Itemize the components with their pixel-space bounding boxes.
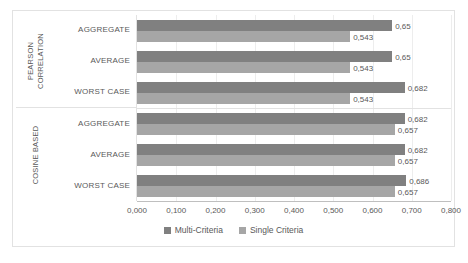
bar-single[interactable] xyxy=(137,186,395,197)
bar-group: 0,6860,657 xyxy=(137,170,451,201)
bar-group: 0,650,543 xyxy=(137,15,451,46)
bar-single[interactable] xyxy=(137,155,395,166)
bar-value-label: 0,65 xyxy=(392,52,411,61)
category-label: WORST CASE xyxy=(56,87,130,97)
bar-single[interactable] xyxy=(137,62,350,73)
bar-value-label: 0,65 xyxy=(392,21,411,30)
value-axis: 0,0000,1000,2000,3000,4000,5000,6000,700… xyxy=(137,201,451,220)
bars-area: 0,650,5430,650,5430,6820,5430,6820,6570,… xyxy=(137,15,451,201)
bar-row-multi: 0,65 xyxy=(137,51,451,62)
bar-row-single: 0,657 xyxy=(137,186,451,197)
legend-swatch-icon xyxy=(164,227,171,234)
bar-row-multi: 0,682 xyxy=(137,144,451,155)
x-axis-tick-label: 0,200 xyxy=(205,206,225,215)
x-axis-tick-label: 0,100 xyxy=(166,206,186,215)
x-axis-tick-label: 0,800 xyxy=(441,206,461,215)
bar-value-label: 0,543 xyxy=(350,32,373,41)
x-axis-tick-label: 0,500 xyxy=(323,206,343,215)
bar-row-single: 0,543 xyxy=(137,62,451,73)
bar-value-label: 0,543 xyxy=(350,63,373,72)
x-axis-tick-label: 0,300 xyxy=(245,206,265,215)
bar-row-multi: 0,682 xyxy=(137,113,451,124)
group-title-pearson-correlation: PEARSON CORRELATION xyxy=(16,15,56,107)
legend-item[interactable]: Multi-Criteria xyxy=(164,225,223,235)
x-axis-tick-label: 0,600 xyxy=(362,206,382,215)
bar-group: 0,650,543 xyxy=(137,46,451,77)
category-label: AGGREGATE xyxy=(56,25,130,35)
bar-multi[interactable] xyxy=(137,20,392,31)
group-block-pearson-correlation: PEARSON CORRELATION AGGREGATE AVERAGE WO… xyxy=(16,15,137,108)
chart-legend: Multi-CriteriaSingle Criteria xyxy=(13,221,454,239)
bar-value-label: 0,543 xyxy=(350,94,373,103)
bar-group: 0,6820,657 xyxy=(137,139,451,170)
group-block-cosine-based: COSINE BASED AGGREGATE AVERAGE WORST CAS… xyxy=(16,108,137,201)
bar-row-single: 0,543 xyxy=(137,93,451,104)
bar-value-label: 0,682 xyxy=(405,114,428,123)
bar-row-single: 0,657 xyxy=(137,124,451,135)
category-axis: PEARSON CORRELATION AGGREGATE AVERAGE WO… xyxy=(16,15,137,201)
plot-area: PEARSON CORRELATION AGGREGATE AVERAGE WO… xyxy=(13,15,454,201)
category-label: AVERAGE xyxy=(56,150,130,160)
bar-row-single: 0,657 xyxy=(137,155,451,166)
legend-label: Single Criteria xyxy=(250,225,303,235)
gridline xyxy=(451,15,452,201)
group-title-cosine-based: COSINE BASED xyxy=(16,108,56,201)
bar-single[interactable] xyxy=(137,124,395,135)
bar-value-label: 0,657 xyxy=(395,187,418,196)
bar-single[interactable] xyxy=(137,31,350,42)
bar-multi[interactable] xyxy=(137,51,392,62)
category-label: AVERAGE xyxy=(56,56,130,66)
bar-multi[interactable] xyxy=(137,144,405,155)
group-title-text: COSINE BASED xyxy=(31,125,41,184)
category-label: AGGREGATE xyxy=(56,119,130,129)
bar-value-label: 0,682 xyxy=(405,145,428,154)
category-label: WORST CASE xyxy=(56,181,130,191)
bar-multi[interactable] xyxy=(137,113,405,124)
bar-row-multi: 0,686 xyxy=(137,175,451,186)
x-axis-tick-label: 0,000 xyxy=(127,206,147,215)
bar-row-multi: 0,65 xyxy=(137,20,451,31)
bar-single[interactable] xyxy=(137,93,350,104)
legend-item[interactable]: Single Criteria xyxy=(239,225,303,235)
bar-row-single: 0,543 xyxy=(137,31,451,42)
category-label-list: AGGREGATE AVERAGE WORST CASE xyxy=(56,108,137,201)
bar-value-label: 0,657 xyxy=(395,125,418,134)
chart-container: PEARSON CORRELATION AGGREGATE AVERAGE WO… xyxy=(12,10,455,247)
legend-swatch-icon xyxy=(239,227,246,234)
x-axis-tick-label: 0,700 xyxy=(402,206,422,215)
group-title-text: PEARSON CORRELATION xyxy=(26,33,46,89)
bar-group: 0,6820,543 xyxy=(137,77,451,108)
bar-value-label: 0,686 xyxy=(406,176,429,185)
bar-row-multi: 0,682 xyxy=(137,82,451,93)
category-label-list: AGGREGATE AVERAGE WORST CASE xyxy=(56,15,137,107)
bar-value-label: 0,682 xyxy=(405,83,428,92)
bar-value-label: 0,657 xyxy=(395,156,418,165)
x-axis-tick-label: 0,400 xyxy=(284,206,304,215)
bar-multi[interactable] xyxy=(137,175,406,186)
bar-multi[interactable] xyxy=(137,82,405,93)
bar-group: 0,6820,657 xyxy=(137,108,451,139)
legend-label: Multi-Criteria xyxy=(175,225,223,235)
